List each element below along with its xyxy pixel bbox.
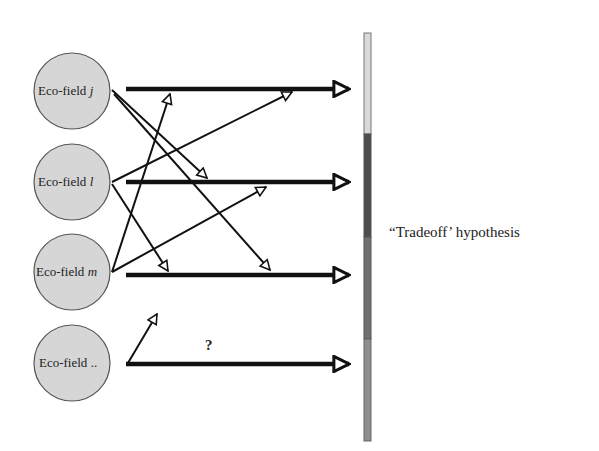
node-label: Eco-field [38,83,90,98]
node-label-var: .. [91,355,98,370]
node-label: Eco-field [39,355,91,370]
bar-segment-2 [364,134,371,237]
node-label-var: m [88,264,97,279]
node-label: Eco-field [36,264,88,279]
svg-text:Eco-field j: Eco-field j [38,83,94,98]
bar-segment-3 [364,237,371,339]
svg-text:Eco-field l: Eco-field l [38,174,94,189]
arrow-l-to-j [112,92,292,182]
node-label: Eco-field [38,174,90,189]
arrow-l-to-m [112,184,168,271]
cross-arrows [112,90,292,363]
node-eco-field-m: Eco-field m [34,234,110,310]
tradeoff-hypothesis-diagram: Eco-field j Eco-field l Eco-field m Eco-… [0,0,599,451]
bar-segment-1 [364,33,371,134]
arrow-j-to-l [112,90,207,178]
hypothesis-label: “Tradeoff’ hypothesis [389,224,520,240]
node-label-var: l [90,174,94,189]
node-eco-field-etc: Eco-field .. [34,325,110,401]
unknown-interaction-label: ? [205,337,213,353]
tradeoff-bar [364,33,371,441]
bar-segment-4 [364,339,371,441]
node-eco-field-l: Eco-field l [34,144,110,220]
svg-text:Eco-field ..: Eco-field .. [39,355,97,370]
node-eco-field-j: Eco-field j [34,53,110,129]
arrow-etc-unknown [128,314,157,363]
main-arrows [126,89,349,364]
svg-text:Eco-field m: Eco-field m [36,264,97,279]
